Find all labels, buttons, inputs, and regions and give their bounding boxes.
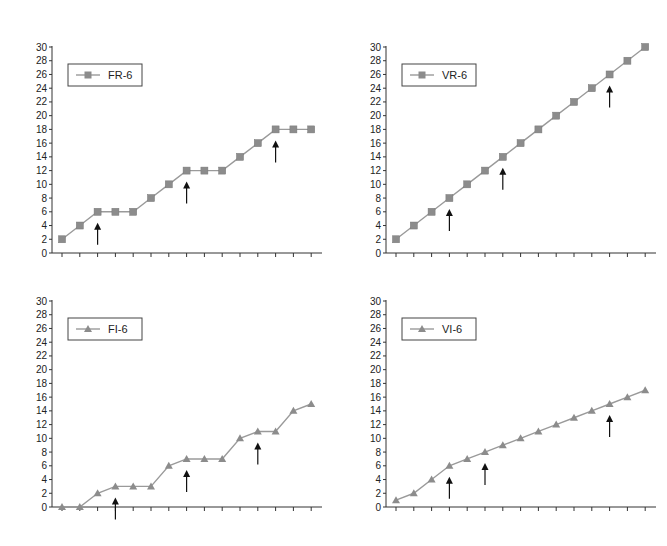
square-marker <box>59 236 66 243</box>
y-tick-label: 22 <box>370 96 382 107</box>
markers <box>58 400 315 510</box>
y-tick-label: 12 <box>370 419 382 430</box>
y-tick-label: 30 <box>370 296 382 307</box>
square-marker <box>535 126 542 133</box>
square-marker <box>165 181 172 188</box>
y-tick-label: 22 <box>36 96 48 107</box>
y-tick-label: 30 <box>36 296 48 307</box>
y-tick-label: 16 <box>370 392 382 403</box>
y-tick-label: 2 <box>375 488 381 499</box>
y-tick-label: 8 <box>375 193 381 204</box>
square-marker <box>428 208 435 215</box>
triangle-marker <box>307 400 315 407</box>
y-tick-label: 28 <box>370 309 382 320</box>
y-tick-label: 12 <box>370 165 382 176</box>
square-marker <box>219 167 226 174</box>
y-tick-label: 26 <box>370 69 382 80</box>
y-tick-label: 26 <box>36 69 48 80</box>
chart-svg: 024681012141618202224262830FI-6 <box>0 254 333 527</box>
square-marker <box>130 208 137 215</box>
square-marker <box>148 195 155 202</box>
arrows <box>94 140 279 244</box>
square-marker <box>446 195 453 202</box>
chart-fr6: 024681012141618202224262830FR-6 <box>0 0 333 273</box>
arrow-up-icon <box>183 470 190 477</box>
legend-label: FR-6 <box>108 69 132 81</box>
triangle-marker <box>641 386 649 393</box>
y-tick-label: 16 <box>370 138 382 149</box>
legend-square-marker <box>419 72 426 79</box>
y-tick-label: 24 <box>36 83 48 94</box>
y-tick-label: 10 <box>370 179 382 190</box>
y-tick-label: 10 <box>36 433 48 444</box>
y-tick-label: 28 <box>36 55 48 66</box>
y-tick-label: 26 <box>36 323 48 334</box>
square-marker <box>624 57 631 64</box>
y-tick-label: 18 <box>36 124 48 135</box>
chart-vr6: 024681012141618202224262830VR-6 <box>334 0 667 273</box>
legend-label: FI-6 <box>108 323 128 335</box>
square-marker <box>254 140 261 147</box>
square-marker <box>290 126 297 133</box>
y-tick-label: 22 <box>36 350 48 361</box>
legend: FR-6 <box>68 64 142 86</box>
y-tick-label: 20 <box>36 110 48 121</box>
arrow-up-icon <box>183 182 190 189</box>
y-tick-label: 2 <box>375 234 381 245</box>
square-marker <box>76 222 83 229</box>
y-tick-label: 26 <box>370 323 382 334</box>
square-marker <box>410 222 417 229</box>
legend-square-marker <box>85 72 92 79</box>
y-tick-label: 6 <box>375 206 381 217</box>
arrows <box>446 85 613 231</box>
y-tick-label: 4 <box>41 474 47 485</box>
y-tick-label: 14 <box>370 151 382 162</box>
square-marker <box>201 167 208 174</box>
y-tick-label: 22 <box>370 350 382 361</box>
square-marker <box>606 71 613 78</box>
square-marker <box>112 208 119 215</box>
legend-label: VR-6 <box>442 69 467 81</box>
y-tick-label: 30 <box>36 42 48 53</box>
chart-svg: 024681012141618202224262830FR-6 <box>0 0 333 273</box>
square-marker <box>499 153 506 160</box>
chart-fi6: 024681012141618202224262830FI-6 <box>0 254 333 527</box>
legend: VR-6 <box>402 64 476 86</box>
square-marker <box>517 140 524 147</box>
y-tick-label: 24 <box>370 83 382 94</box>
y-tick-label: 4 <box>41 220 47 231</box>
square-marker <box>482 167 489 174</box>
y-tick-label: 14 <box>36 405 48 416</box>
y-tick-label: 12 <box>36 165 48 176</box>
square-marker <box>464 181 471 188</box>
y-tick-label: 18 <box>36 378 48 389</box>
y-tick-label: 14 <box>370 405 382 416</box>
y-tick-label: 20 <box>370 364 382 375</box>
legend-label: VI-6 <box>442 323 462 335</box>
square-marker <box>237 153 244 160</box>
square-marker <box>393 236 400 243</box>
y-tick-label: 20 <box>36 364 48 375</box>
y-tick-label: 28 <box>370 55 382 66</box>
y-tick-label: 24 <box>36 337 48 348</box>
markers <box>392 386 649 503</box>
y-tick-label: 18 <box>370 124 382 135</box>
arrow-up-icon <box>112 497 119 504</box>
arrow-up-icon <box>272 140 279 147</box>
legend: VI-6 <box>402 318 476 340</box>
y-tick-label: 0 <box>375 502 381 513</box>
square-marker <box>642 44 649 51</box>
y-tick-label: 4 <box>375 220 381 231</box>
arrow-up-icon <box>606 85 613 92</box>
y-tick-label: 24 <box>370 337 382 348</box>
y-tick-label: 6 <box>41 206 47 217</box>
arrow-up-icon <box>482 463 489 470</box>
arrow-up-icon <box>606 415 613 422</box>
y-tick-label: 4 <box>375 474 381 485</box>
chart-svg: 024681012141618202224262830VI-6 <box>334 254 667 527</box>
arrow-up-icon <box>254 442 261 449</box>
square-marker <box>588 85 595 92</box>
square-marker <box>553 112 560 119</box>
y-tick-label: 0 <box>41 502 47 513</box>
y-tick-label: 20 <box>370 110 382 121</box>
